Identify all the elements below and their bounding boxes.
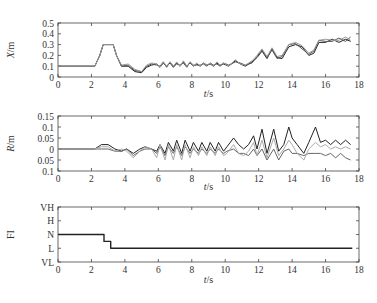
x-position-plot: 02468101214161800.10.20.30.40.5t/sX/m: [5, 19, 364, 100]
x-tick-label: 10: [220, 265, 230, 275]
y-tick-label: VH: [40, 203, 54, 213]
x-tick-label: 16: [321, 174, 331, 184]
series-line-trajectory-2: [58, 37, 351, 72]
series-line-trajectory-3: [58, 37, 351, 72]
x-tick-label: 12: [254, 265, 264, 275]
x-tick-label: 10: [220, 80, 230, 90]
x-tick-label: 14: [287, 174, 297, 184]
x-tick-label: 16: [321, 265, 331, 275]
y-axis-label: FI: [5, 230, 16, 239]
x-tick-label: 18: [354, 265, 364, 275]
x-tick-label: 2: [89, 80, 94, 90]
x-tick-label: 12: [254, 80, 264, 90]
x-tick-label: 6: [156, 265, 161, 275]
x-tick-label: 18: [354, 174, 364, 184]
figure: 02468101214161800.10.20.30.40.5t/sX/m 02…: [0, 0, 377, 303]
y-tick-label: 0.1: [42, 62, 54, 72]
y-tick-label: 0: [49, 145, 54, 155]
x-tick-label: 6: [156, 80, 161, 90]
x-tick-label: 4: [123, 174, 128, 184]
x-tick-label: 0: [56, 174, 61, 184]
x-axis-label: t/s: [204, 88, 214, 99]
y-tick-label: VL: [41, 258, 54, 268]
y-axis-label: R/m: [5, 135, 16, 153]
x-axis-label: t/s: [204, 181, 214, 192]
x-tick-label: 8: [189, 80, 194, 90]
fuzzy-index-plot: 024681012141618VLLNHVHt/sFI: [5, 203, 364, 286]
y-tick-label: 0.2: [42, 51, 54, 61]
x-axis-label: t/s: [204, 274, 214, 285]
x-tick-label: 12: [254, 174, 264, 184]
x-tick-label: 10: [220, 174, 230, 184]
x-tick-label: 8: [189, 265, 194, 275]
x-tick-label: 14: [287, 265, 297, 275]
y-tick-label: 0.1: [42, 167, 54, 177]
x-tick-label: 4: [123, 80, 128, 90]
y-tick-label: H: [47, 216, 54, 226]
x-tick-label: 18: [354, 80, 364, 90]
y-tick-label: L: [48, 244, 54, 254]
x-tick-label: 0: [56, 265, 61, 275]
x-tick-label: 16: [321, 80, 331, 90]
y-tick-label: 0.4: [42, 29, 54, 39]
y-tick-label: 0.3: [42, 40, 54, 50]
r-error-plot: 0246810121416180.10.0500.050.10.15t/sR/m: [5, 112, 364, 193]
x-tick-label: 4: [123, 265, 128, 275]
y-tick-label: 0.1: [42, 123, 54, 133]
y-tick-label: 0.5: [42, 19, 54, 29]
series-line-fuzzy-index: [58, 235, 352, 249]
y-tick-label: 0: [49, 73, 54, 83]
y-axis-label: X/m: [5, 41, 16, 59]
x-tick-label: 0: [56, 80, 61, 90]
y-tick-label: 0.15: [37, 112, 54, 122]
y-tick-label: N: [47, 230, 54, 240]
x-tick-label: 2: [89, 174, 94, 184]
x-tick-label: 2: [89, 265, 94, 275]
y-tick-label: 0.05: [37, 156, 54, 166]
x-tick-label: 6: [156, 174, 161, 184]
x-tick-label: 14: [287, 80, 297, 90]
series-line-trajectory-1: [58, 39, 351, 72]
x-tick-label: 8: [189, 174, 194, 184]
y-tick-label: 0.05: [37, 134, 54, 144]
